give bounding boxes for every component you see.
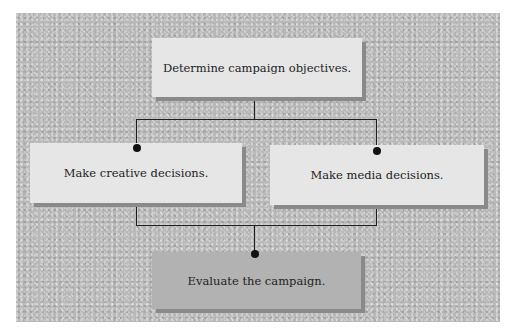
- node-label: Evaluate the campaign.: [188, 274, 326, 288]
- node-determine-objectives: Determine campaign objectives.: [152, 38, 362, 97]
- node-label: Determine campaign objectives.: [163, 61, 351, 75]
- node-evaluate-campaign: Evaluate the campaign.: [152, 252, 361, 309]
- connector-from-creative: [136, 203, 137, 225]
- connector-from-media: [376, 205, 377, 226]
- connector-dot-evaluate: [251, 250, 259, 258]
- node-label: Make media decisions.: [310, 168, 443, 182]
- node-creative-decisions: Make creative decisions.: [30, 143, 242, 203]
- connector-bottom-horizontal: [136, 225, 377, 226]
- connector-objectives-stem: [254, 97, 255, 119]
- connector-dot-creative: [133, 144, 141, 152]
- node-label: Make creative decisions.: [64, 166, 209, 180]
- connector-top-horizontal: [136, 119, 376, 120]
- connector-dot-media: [373, 147, 381, 155]
